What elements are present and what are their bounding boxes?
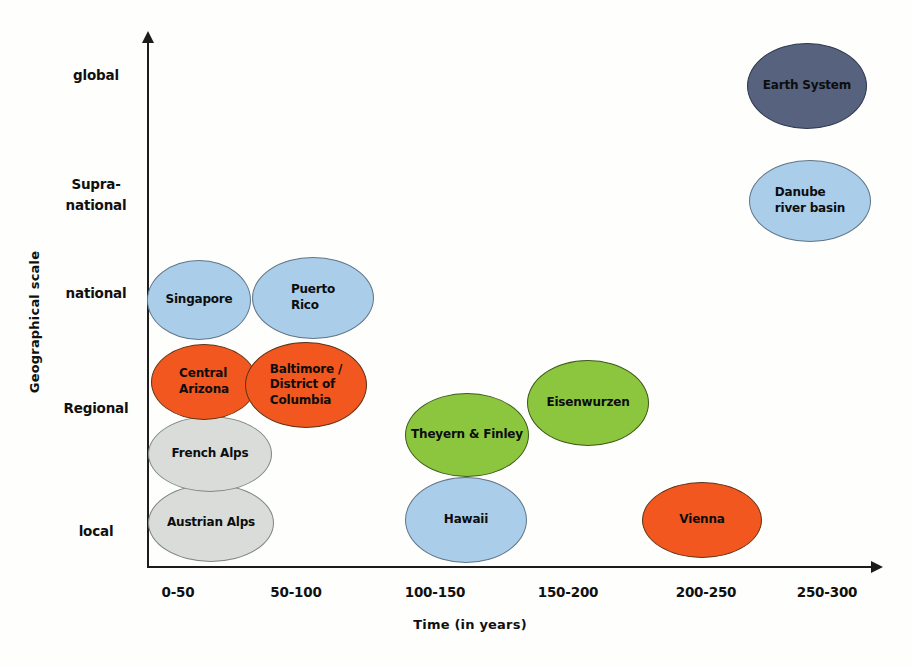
- bubble-label-line: Vienna: [679, 512, 724, 528]
- bubble-label: Austrian Alps: [167, 515, 255, 531]
- x-axis-title: Time (in years): [413, 617, 527, 632]
- bubble-label-line: District of: [270, 377, 342, 393]
- y-tick-line: national: [50, 195, 142, 216]
- bubble-label-line: Arizona: [179, 382, 229, 398]
- bubble-label: Hawaii: [444, 512, 488, 528]
- bubble-danube-river-basin: Danuberiver basin: [749, 160, 871, 242]
- bubble-austrian-alps: Austrian Alps: [148, 484, 274, 562]
- bubble-label-line: Earth System: [763, 78, 851, 94]
- y-tick-line: global: [50, 65, 142, 86]
- x-tick-150-200: 150-200: [538, 584, 599, 600]
- bubble-label-line: Theyern & Finley: [411, 427, 523, 443]
- bubble-label-line: French Alps: [172, 446, 249, 462]
- bubble-label-line: Central: [179, 366, 229, 382]
- bubble-label-line: Rico: [291, 298, 335, 314]
- bubble-eisenwurzen: Eisenwurzen: [527, 360, 649, 446]
- bubble-label: Eisenwurzen: [546, 395, 629, 411]
- bubble-vienna: Vienna: [642, 482, 762, 558]
- bubble-baltimore-district-of-columbia: Baltimore /District ofColumbia: [245, 342, 367, 428]
- bubble-singapore: Singapore: [147, 260, 251, 340]
- y-tick-line: national: [50, 283, 142, 304]
- bubble-label: CentralArizona: [179, 366, 229, 397]
- y-tick-line: Regional: [50, 398, 142, 419]
- bubble-label: PuertoRico: [291, 282, 335, 313]
- bubble-central-arizona: CentralArizona: [151, 344, 257, 420]
- bubble-label: Theyern & Finley: [411, 427, 523, 443]
- x-tick-250-300: 250-300: [797, 584, 858, 600]
- bubble-earth-system: Earth System: [747, 43, 867, 129]
- x-tick-50-100: 50-100: [270, 584, 321, 600]
- x-tick-0-50: 0-50: [162, 584, 195, 600]
- bubble-label-line: Hawaii: [444, 512, 488, 528]
- y-tick-global: global: [50, 65, 142, 86]
- bubble-label-line: Austrian Alps: [167, 515, 255, 531]
- bubble-label-line: river basin: [775, 201, 845, 217]
- y-tick-line: Supra-: [50, 174, 142, 195]
- bubble-label-line: Danube: [775, 185, 845, 201]
- bubble-label-line: Singapore: [165, 292, 232, 308]
- bubble-puerto-rico: PuertoRico: [252, 257, 374, 339]
- bubble-label-line: Columbia: [270, 393, 342, 409]
- bubble-label-line: Baltimore /: [270, 362, 342, 378]
- bubble-label: Vienna: [679, 512, 724, 528]
- bubble-label: Singapore: [165, 292, 232, 308]
- bubble-label: Danuberiver basin: [775, 185, 845, 216]
- bubble-hawaii: Hawaii: [405, 477, 527, 563]
- x-axis-arrow-icon: [871, 561, 883, 573]
- bubble-label: Earth System: [763, 78, 851, 94]
- y-axis-arrow-icon: [142, 31, 154, 43]
- bubble-chart: Geographical scale globalSupra-nationaln…: [0, 0, 911, 666]
- y-tick-regional: Regional: [50, 398, 142, 419]
- x-axis-line: [147, 566, 873, 568]
- y-tick-local: local: [50, 521, 142, 542]
- bubble-label-line: Eisenwurzen: [546, 395, 629, 411]
- bubble-theyern-and-finley: Theyern & Finley: [405, 393, 529, 477]
- y-axis-title: Geographical scale: [27, 251, 42, 393]
- y-tick-line: local: [50, 521, 142, 542]
- x-tick-100-150: 100-150: [405, 584, 466, 600]
- bubble-label: French Alps: [172, 446, 249, 462]
- bubble-french-alps: French Alps: [148, 416, 272, 492]
- bubble-label-line: Puerto: [291, 282, 335, 298]
- x-tick-200-250: 200-250: [676, 584, 737, 600]
- bubble-label: Baltimore /District ofColumbia: [270, 362, 342, 409]
- y-tick-supra--national: Supra-national: [50, 174, 142, 216]
- y-tick-national: national: [50, 283, 142, 304]
